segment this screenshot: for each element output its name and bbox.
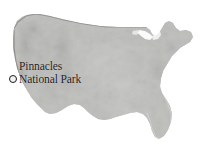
usa-relief-map [0, 0, 212, 159]
locator-map-figure: Pinnacles National Park [0, 0, 212, 159]
circle-marker-icon [9, 75, 17, 83]
